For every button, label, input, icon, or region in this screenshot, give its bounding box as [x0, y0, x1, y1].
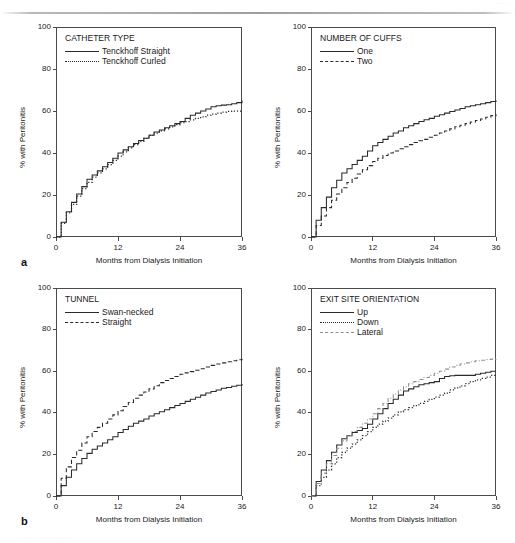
legend-key-dash-dot-icon	[320, 332, 354, 333]
legend-item: Down	[320, 318, 419, 327]
legend-item: Up	[320, 308, 419, 317]
curve-layer	[0, 0, 515, 543]
chart-legend: EXIT SITE ORIENTATIONUpDownLateral	[320, 294, 419, 337]
legend-label: Down	[357, 318, 379, 327]
panel-letter-b: b	[21, 515, 28, 527]
legend-label: Lateral	[357, 328, 383, 337]
legend-item: Lateral	[320, 328, 419, 337]
series-curve	[311, 359, 496, 496]
legend-label: Up	[357, 308, 368, 317]
legend-key-dotted-icon	[320, 322, 354, 323]
panel-letter-a: a	[21, 256, 27, 268]
panel-exit-site-orientation: 0204060801000122436% with PeritonitisMon…	[0, 0, 515, 543]
figure-page: · ·· · · · · · · · · · · · ·· · · · · 02…	[0, 0, 515, 543]
legend-key-solid-icon	[320, 312, 354, 313]
legend-title: EXIT SITE ORIENTATION	[320, 294, 419, 304]
